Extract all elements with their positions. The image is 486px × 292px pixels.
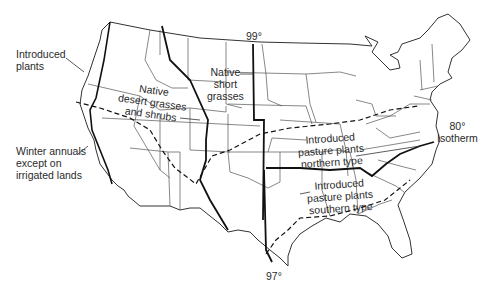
label-line: Isotherm (437, 132, 478, 144)
label-line: except on (16, 157, 86, 169)
label-line: 80° (437, 120, 478, 132)
label-line: Introduced (16, 48, 66, 60)
label-pasture-northern: Introduced pasture plants northern type (297, 130, 365, 171)
label-native-short: Native short grasses (207, 66, 244, 102)
us-outline (80, 14, 470, 266)
label-line: plants (16, 60, 66, 72)
coastal-boundary-line (90, 22, 112, 184)
label-line: irrigated lands (16, 169, 86, 181)
label-isotherm: 80° Isotherm (437, 120, 478, 144)
label-pasture-southern: Introduced pasture plants southern type (306, 176, 374, 217)
label-line: short (207, 78, 244, 90)
region-lines (90, 22, 434, 262)
label-meridian-99: 99° (246, 30, 262, 42)
label-winter-annuals: Winter annuals except on irrigated lands (16, 145, 86, 181)
label-meridian-97: 97° (266, 270, 282, 282)
label-line: Winter annuals (16, 145, 86, 157)
meridian-99-line (253, 44, 264, 220)
desert-short-grass-boundary (162, 26, 228, 230)
label-line: Native (207, 66, 244, 78)
label-line: grasses (207, 90, 244, 102)
label-introduced-plants: Introduced plants (16, 48, 66, 72)
